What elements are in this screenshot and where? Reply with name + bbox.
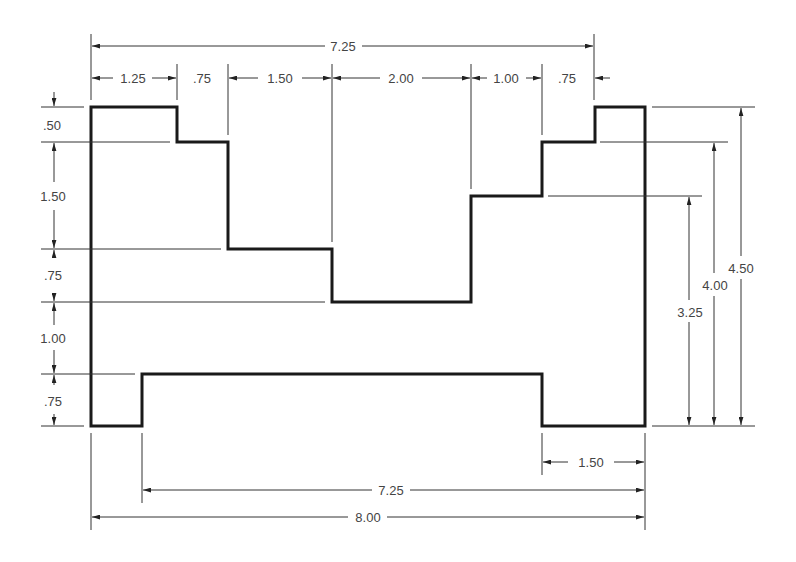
dim-label: 1.00 bbox=[40, 331, 65, 346]
dim-label: .75 bbox=[44, 394, 62, 409]
dim-label: 7.25 bbox=[330, 39, 355, 54]
dim-label: .75 bbox=[193, 71, 211, 86]
dim-label: .75 bbox=[44, 268, 62, 283]
dim-bottom: 1.50 7.25 8.00 bbox=[92, 455, 644, 525]
dim-label: 2.00 bbox=[388, 71, 413, 86]
dim-label: 1.50 bbox=[267, 71, 292, 86]
dim-label: 1.50 bbox=[40, 189, 65, 204]
dim-label: 8.00 bbox=[355, 510, 380, 525]
dim-label: 4.50 bbox=[728, 261, 753, 276]
dim-label: 1.00 bbox=[493, 71, 518, 86]
dim-label: 7.25 bbox=[378, 483, 403, 498]
dim-right: 3.25 4.00 4.50 bbox=[677, 108, 753, 425]
dim-label: 1.25 bbox=[120, 71, 145, 86]
right-extension-lines bbox=[548, 107, 755, 426]
top-extension-lines bbox=[91, 34, 594, 242]
dim-label: 1.50 bbox=[578, 455, 603, 470]
dim-label: .50 bbox=[43, 118, 61, 133]
dim-label: 3.25 bbox=[677, 305, 702, 320]
left-extension-lines bbox=[41, 107, 325, 426]
part-outline bbox=[91, 107, 645, 426]
dim-label: .75 bbox=[558, 71, 576, 86]
dim-label: 4.00 bbox=[702, 278, 727, 293]
technical-drawing: 7.25 1.25 .75 1.50 2.00 1.00 .75 .50 1.5… bbox=[0, 0, 796, 562]
dim-top-overall: 7.25 bbox=[92, 39, 593, 54]
dim-top-chain: 1.25 .75 1.50 2.00 1.00 .75 bbox=[92, 71, 610, 86]
